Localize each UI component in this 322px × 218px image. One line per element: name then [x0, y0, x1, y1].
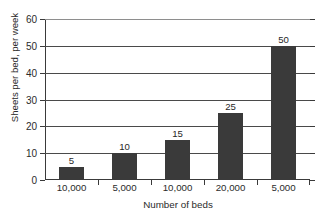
- y-axis-tick-right: [310, 126, 315, 127]
- x-axis-tick-label: 10,000: [45, 182, 98, 193]
- y-axis-tick-label: 50: [26, 40, 37, 51]
- bar-slot: 5: [45, 19, 98, 180]
- bar-value-label: 10: [119, 141, 130, 152]
- bar: 10: [112, 153, 137, 180]
- bar-value-label: 15: [172, 128, 183, 139]
- bar-value-label: 50: [278, 34, 289, 45]
- bar: 25: [218, 113, 243, 180]
- y-axis-tick-label: 40: [26, 67, 37, 78]
- bar-series: 510152550: [45, 19, 310, 180]
- bar-slot: 15: [151, 19, 204, 180]
- chart-title: Utilisation of sheets used in beds: [0, 0, 322, 2]
- y-axis-tick-label: 10: [26, 148, 37, 159]
- y-axis-tick-label: 20: [26, 121, 37, 132]
- y-axis-tick-right: [310, 180, 315, 181]
- bar-value-label: 5: [69, 155, 74, 166]
- x-axis-tick-label: 10,000: [151, 182, 204, 193]
- plot-area: 0102030405060 510152550: [45, 19, 310, 180]
- y-axis-tick-right: [310, 100, 315, 101]
- y-axis-tick-right: [310, 73, 315, 74]
- bar-value-label: 25: [225, 101, 236, 112]
- y-axis-tick-label: 30: [26, 94, 37, 105]
- y-axis-tick-label: 0: [31, 175, 37, 186]
- bar: 5: [59, 167, 84, 180]
- y-axis-tick-label: 60: [26, 14, 37, 25]
- y-axis-title: Sheets per bed, per week: [9, 0, 20, 143]
- y-axis-tick-right: [310, 153, 315, 154]
- y-axis-tick-right: [310, 19, 315, 20]
- x-axis-tick-labels: 10,0005,00010,00020,0005,000: [45, 182, 310, 193]
- y-axis-tick-right: [310, 46, 315, 47]
- x-axis-title: Number of beds: [44, 199, 312, 210]
- bar: 50: [271, 46, 296, 180]
- x-axis-tick-label: 5,000: [98, 182, 151, 193]
- x-axis-tick-label: 5,000: [257, 182, 310, 193]
- x-axis-tick-label: 20,000: [204, 182, 257, 193]
- bar: 15: [165, 140, 190, 180]
- y-axis-tick: [40, 180, 45, 181]
- bar-chart: Utilisation of sheets used in beds Sheet…: [0, 0, 322, 218]
- bar-slot: 25: [204, 19, 257, 180]
- bar-slot: 50: [257, 19, 310, 180]
- bar-slot: 10: [98, 19, 151, 180]
